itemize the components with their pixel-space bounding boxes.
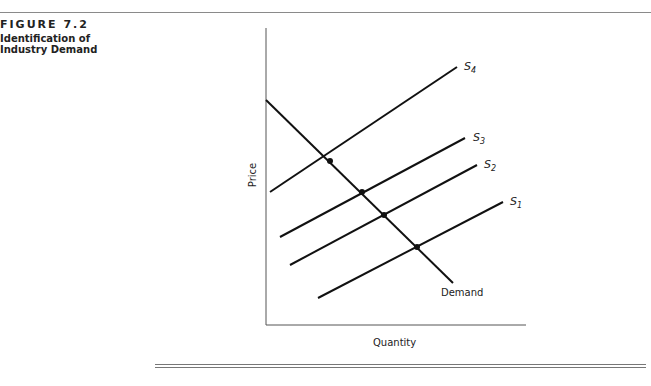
bottom-rule-secondary <box>155 367 646 368</box>
equilibrium-point-s2 <box>381 212 387 218</box>
equilibrium-point-s3 <box>359 189 365 195</box>
label-s4: S4 <box>464 60 476 75</box>
bottom-rule <box>155 364 646 365</box>
supply-demand-chart: S4 S3 S2 S1 Demand Quantity Price <box>0 0 651 386</box>
label-s2: S2 <box>484 158 496 173</box>
supply-curve-s1 <box>318 202 503 298</box>
y-axis-label: Price <box>247 163 258 187</box>
supply-curve-s4 <box>270 67 457 192</box>
x-axis-label: Quantity <box>373 337 416 348</box>
label-s1: S1 <box>510 195 522 210</box>
label-s3: S3 <box>473 131 485 146</box>
equilibrium-point-s1 <box>414 244 420 250</box>
label-demand: Demand <box>441 287 483 298</box>
supply-curve-s3 <box>280 138 465 237</box>
equilibrium-point-s4 <box>327 158 333 164</box>
